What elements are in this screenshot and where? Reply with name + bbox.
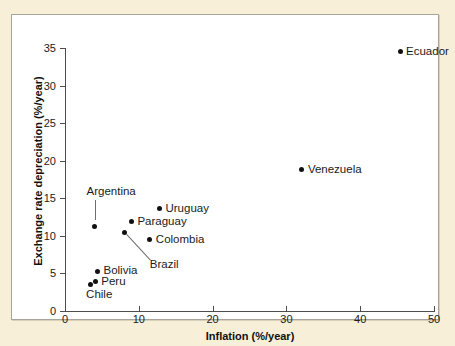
data-point[interactable] bbox=[147, 237, 152, 242]
label-leader-line bbox=[95, 200, 96, 220]
x-tick-label: 10 bbox=[133, 314, 145, 325]
plot-area: EcuadorVenezuelaUruguayParaguayArgentina… bbox=[65, 48, 434, 311]
x-tick bbox=[434, 306, 435, 311]
x-tick-label: 0 bbox=[62, 314, 68, 325]
data-point[interactable] bbox=[299, 167, 304, 172]
data-point-label: Peru bbox=[101, 276, 125, 288]
data-point-label: Argentina bbox=[87, 186, 136, 198]
y-tick-label: 0 bbox=[36, 306, 56, 317]
x-axis-title: Inflation (%/year) bbox=[65, 330, 435, 342]
x-tick-label: 20 bbox=[206, 314, 218, 325]
data-point-label: Brazil bbox=[150, 259, 179, 271]
data-point[interactable] bbox=[88, 282, 93, 287]
chart-panel: 01020304050 05101520253035 EcuadorVenezu… bbox=[11, 14, 439, 320]
data-point[interactable] bbox=[93, 279, 98, 284]
y-axis-title: Exchange rate depreciation (%/year) bbox=[32, 56, 44, 286]
x-tick-label: 50 bbox=[428, 314, 440, 325]
data-point-label: Ecuador bbox=[406, 46, 449, 58]
data-point[interactable] bbox=[157, 206, 162, 211]
data-point-label: Venezuela bbox=[308, 164, 362, 176]
data-point-label: Paraguay bbox=[137, 216, 186, 228]
y-tick bbox=[60, 311, 65, 312]
figure-root: 01020304050 05101520253035 EcuadorVenezu… bbox=[0, 0, 455, 346]
x-tick-label: 40 bbox=[354, 314, 366, 325]
x-tick-label: 30 bbox=[280, 314, 292, 325]
data-point-label: Colombia bbox=[156, 234, 205, 246]
data-point[interactable] bbox=[129, 219, 134, 224]
y-tick-label: 35 bbox=[36, 43, 56, 54]
data-point[interactable] bbox=[398, 49, 403, 54]
data-point-label: Chile bbox=[86, 289, 112, 301]
data-point[interactable] bbox=[92, 224, 97, 229]
x-axis-line bbox=[65, 311, 435, 312]
data-point-label: Uruguay bbox=[165, 203, 208, 215]
data-point[interactable] bbox=[95, 269, 100, 274]
